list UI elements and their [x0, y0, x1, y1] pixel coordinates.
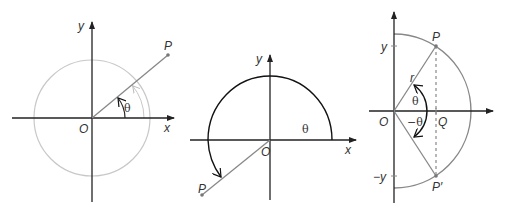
panel-1: y x O P θ	[12, 19, 174, 202]
point-p-prime-dot	[434, 174, 438, 178]
y-axis-label: y	[77, 19, 85, 33]
terminal-ray	[202, 140, 270, 195]
radius-label: r	[410, 71, 415, 85]
neg-y-tick-label: −y	[373, 170, 387, 184]
theta-label: θ	[412, 95, 419, 108]
y-tick-label: y	[380, 40, 388, 54]
x-axis-label: x	[344, 143, 352, 157]
neg-theta-label: −θ	[407, 116, 423, 129]
y-axis-label: y	[255, 52, 263, 66]
trig-angle-diagrams: y x O P θ y x O P θ y −y O Q P	[0, 0, 507, 212]
q-label: Q	[438, 115, 447, 129]
origin-label: O	[79, 122, 88, 136]
point-p-dot	[434, 44, 438, 48]
origin-label: O	[261, 145, 270, 159]
x-axis-label: x	[163, 121, 171, 135]
point-p-dot	[166, 53, 170, 57]
panel-3: y −y O Q P P′ r θ −θ	[369, 12, 493, 203]
point-p-label: P	[198, 182, 206, 196]
point-p-label: P	[164, 39, 172, 53]
panel-2: y x O P θ	[190, 52, 356, 200]
point-p-prime-label: P′	[432, 180, 443, 194]
point-p-label: P	[432, 30, 440, 44]
theta-label: θ	[124, 102, 131, 115]
theta-label: θ	[302, 123, 309, 136]
origin-label: O	[379, 115, 388, 129]
